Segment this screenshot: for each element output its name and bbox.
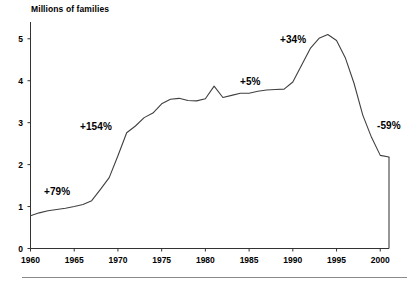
footer-divider (22, 277, 407, 278)
axes (28, 22, 390, 252)
x-tick-label: 1990 (278, 255, 308, 265)
x-tick-label: 1970 (103, 255, 133, 265)
y-tick-label: 4 (9, 76, 23, 86)
x-tick-label: 1975 (147, 255, 177, 265)
x-tick-label: 1960 (16, 255, 46, 265)
y-tick-label: 3 (9, 118, 23, 128)
x-tick-label: 1985 (234, 255, 264, 265)
annotation-label: -59% (377, 120, 401, 131)
chart-plot-area (0, 0, 417, 287)
annotation-label: +34% (280, 34, 306, 45)
annotation-label: +5% (240, 76, 261, 87)
x-tick-label: 1965 (59, 255, 89, 265)
y-tick-label: 0 (9, 244, 23, 254)
y-tick-label: 1 (9, 202, 23, 212)
annotation-label: +154% (80, 121, 112, 132)
x-tick-label: 1995 (322, 255, 352, 265)
x-tick-label: 1980 (190, 255, 220, 265)
chart-figure: Millions of families 012345 196019651970… (0, 0, 417, 287)
annotation-label: +79% (44, 186, 70, 197)
y-tick-label: 2 (9, 160, 23, 170)
y-tick-label: 5 (9, 34, 23, 44)
x-tick-label: 2000 (365, 255, 395, 265)
